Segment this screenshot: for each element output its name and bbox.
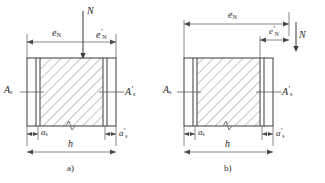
width-label-h: h	[68, 139, 73, 149]
ecc-tick-right	[110, 40, 116, 45]
figure-canvas: eN e′N N As A′s as a′s h a)	[0, 0, 325, 183]
panel-b-drawing	[162, 0, 325, 183]
cover-right-tick-1	[105, 132, 110, 136]
steel-right-label: A′s	[282, 85, 292, 97]
width-label-h: h	[225, 139, 230, 149]
ecc-right-label: e′N	[269, 26, 279, 37]
cover-right-label: a′s	[276, 128, 284, 139]
steel-left-label: As	[163, 85, 172, 96]
ecc-right-label: e′N	[96, 28, 107, 40]
cover-right-tick-2	[268, 132, 273, 136]
cover-left-tick-1	[184, 132, 189, 136]
width-tick-left	[27, 150, 33, 155]
cover-right-tick-1	[262, 132, 267, 136]
steel-right-label: A′s	[125, 85, 135, 97]
cover-left-tick-1	[27, 132, 32, 136]
panel-b: eN e′N N As A′s as a′s h b)	[162, 0, 325, 183]
ecc-left-label: eN	[228, 10, 237, 21]
cover-left-label: as	[198, 128, 205, 138]
panel-a-caption: a)	[67, 163, 74, 173]
load-label-N: N	[87, 6, 94, 16]
cover-right-tick-2	[111, 132, 116, 136]
ecc-prime-tick-left	[260, 38, 266, 43]
ecc-left-label: eN	[52, 28, 61, 39]
width-tick-left	[184, 150, 190, 155]
panel-a-drawing	[0, 0, 163, 183]
width-tick-right	[267, 150, 273, 155]
ecc-prime-tick-right	[283, 38, 289, 43]
concrete-hatch-area	[197, 58, 260, 126]
load-label-N: N	[299, 30, 306, 40]
ecc-tick-left	[184, 22, 190, 27]
cover-left-tick-2	[190, 132, 195, 136]
ecc-tick-left	[27, 40, 33, 45]
ecc-tick-right	[283, 22, 289, 27]
panel-a: eN e′N N As A′s as a′s h a)	[0, 0, 163, 183]
load-arrowhead-N	[293, 46, 298, 52]
concrete-hatch-area	[40, 58, 103, 126]
cover-left-tick-2	[33, 132, 38, 136]
width-tick-right	[110, 150, 116, 155]
steel-left-label: As	[4, 85, 13, 96]
panel-b-caption: b)	[224, 163, 232, 173]
cover-left-label: as	[41, 128, 48, 138]
cover-right-label: a′s	[119, 128, 127, 139]
